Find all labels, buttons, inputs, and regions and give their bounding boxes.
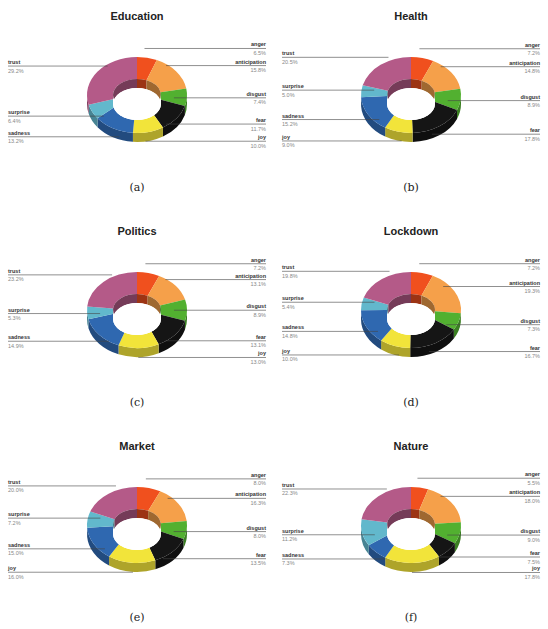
chart-panel-lockdown: Lockdownanger7.2%anticipation19.3%disgus…	[274, 215, 548, 425]
subfigure-caption: (e)	[0, 611, 274, 624]
donut-chart	[274, 430, 548, 629]
chart-panel-education: Educationanger6.5%anticipation15.8%disgu…	[0, 0, 274, 210]
donut-chart	[274, 215, 548, 425]
subfigure-caption: (c)	[0, 396, 274, 409]
chart-panel-health: Healthanger7.2%anticipation14.8%disgust8…	[274, 0, 548, 210]
chart-panel-nature: Natureanger5.5%anticipation18.0%disgust9…	[274, 430, 548, 629]
donut-chart	[274, 0, 548, 210]
chart-panel-market: Marketanger8.0%anticipation16.3%disgust8…	[0, 430, 274, 629]
subfigure-caption: (b)	[274, 181, 548, 194]
donut-chart	[0, 215, 274, 425]
donut-chart	[0, 0, 274, 210]
donut-chart	[0, 430, 274, 629]
chart-panel-politics: Politicsanger7.2%anticipation13.1%disgus…	[0, 215, 274, 425]
subfigure-caption: (d)	[274, 396, 548, 409]
subfigure-caption: (f)	[274, 611, 548, 624]
subfigure-caption: (a)	[0, 181, 274, 194]
figure-grid: Educationanger6.5%anticipation15.8%disgu…	[0, 0, 548, 629]
